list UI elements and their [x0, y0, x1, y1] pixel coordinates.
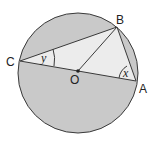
label-c: C	[6, 55, 15, 69]
circle-diagram: C B A O y x	[0, 0, 157, 144]
label-b: B	[116, 13, 124, 27]
angle-label-y: y	[40, 51, 47, 65]
label-a: A	[139, 82, 147, 96]
angle-label-x: x	[122, 66, 129, 80]
label-o: O	[70, 73, 79, 87]
